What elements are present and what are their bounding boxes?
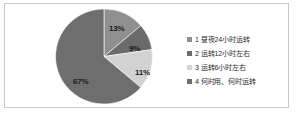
legend-swatch-icon-1 bbox=[187, 37, 192, 42]
chart-frame: 13% 9% 11% 67% 1 昼夜24小时运转 2 运转12小时左右 3 运… bbox=[4, 3, 289, 108]
pie-slice-label-3: 11% bbox=[135, 69, 150, 77]
legend-swatch-icon-4 bbox=[187, 79, 192, 84]
legend-label-3: 3 运转6小时左右 bbox=[195, 64, 246, 71]
pie-chart-svg bbox=[53, 8, 155, 105]
legend-swatch-icon-3 bbox=[187, 65, 192, 70]
pie-chart: 13% 9% 11% 67% bbox=[53, 8, 155, 105]
pie-slice-label-1: 13% bbox=[109, 25, 124, 33]
legend-item-2[interactable]: 2 运转12小时左右 bbox=[187, 46, 287, 60]
legend-item-4[interactable]: 4 何时用、何时运转 bbox=[187, 74, 287, 88]
legend-item-1[interactable]: 1 昼夜24小时运转 bbox=[187, 32, 287, 46]
pie-slice-label-2: 9% bbox=[129, 45, 140, 53]
chart-legend: 1 昼夜24小时运转 2 运转12小时左右 3 运转6小时左右 4 何时用、何时… bbox=[187, 32, 287, 88]
legend-label-1: 1 昼夜24小时运转 bbox=[195, 36, 250, 43]
legend-label-2: 2 运转12小时左右 bbox=[195, 50, 250, 57]
pie-chart-plot-area: 13% 9% 11% 67% bbox=[5, 4, 180, 107]
legend-swatch-icon-2 bbox=[187, 51, 192, 56]
legend-label-4: 4 何时用、何时运转 bbox=[195, 78, 256, 85]
pie-slice-label-4: 67% bbox=[73, 78, 88, 86]
legend-item-3[interactable]: 3 运转6小时左右 bbox=[187, 60, 287, 74]
